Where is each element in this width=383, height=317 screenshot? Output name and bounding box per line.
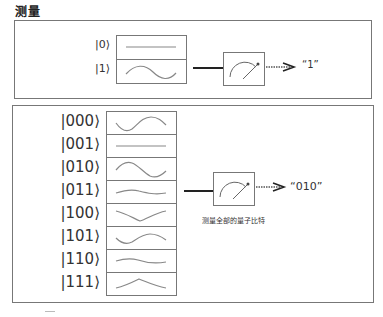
meter-box	[223, 52, 265, 86]
state-wave-box-010	[106, 157, 177, 181]
state-wave-box-0	[116, 35, 187, 60]
state-wave-box-001	[106, 134, 177, 158]
state-label-000: |000⟩	[44, 112, 100, 130]
peak-wave-icon	[107, 273, 176, 295]
state-label-110: |110⟩	[44, 250, 100, 268]
state-label-010: |010⟩	[44, 158, 100, 176]
measurement-output-3q: “010”	[290, 180, 322, 193]
sine-wave-icon	[117, 60, 186, 83]
flat-wave-icon	[107, 135, 176, 157]
dip-wave-icon	[107, 204, 176, 226]
state-label-100: |100⟩	[44, 204, 100, 222]
flat-wave-icon	[117, 36, 186, 59]
state-label-101: |101⟩	[44, 227, 100, 245]
dotted-arrow-icon	[255, 181, 287, 193]
measurement-meter-icon	[224, 53, 264, 85]
section-title: 测量	[15, 2, 41, 19]
state-label-001: |001⟩	[44, 135, 100, 153]
measurement-caption: 测量全部的量子比特	[202, 215, 265, 225]
sine-wave-icon	[107, 227, 176, 249]
state-wave-box-1	[116, 59, 187, 84]
state-wave-box-101	[106, 226, 177, 250]
wire-to-meter-3q	[184, 190, 213, 192]
state-wave-box-111	[106, 272, 177, 296]
state-wave-box-100	[106, 203, 177, 227]
gentle-wave-icon	[107, 181, 176, 203]
state-label-111: |111⟩	[44, 273, 100, 291]
dotted-arrow-icon	[265, 61, 297, 73]
state-label-0: |0⟩	[80, 38, 110, 51]
state-label-011: |011⟩	[44, 181, 100, 199]
measurement-meter-icon	[214, 173, 254, 205]
state-wave-box-000	[106, 111, 177, 135]
sine-wave-icon	[107, 112, 176, 134]
measurement-output: “1”	[302, 59, 319, 70]
wire-to-meter	[193, 67, 223, 69]
sine-wave-icon	[107, 158, 176, 180]
state-wave-box-110	[106, 249, 177, 273]
page-footer-mark	[45, 311, 55, 312]
state-wave-box-011	[106, 180, 177, 204]
meter-box-3q	[213, 172, 255, 206]
state-label-1: |1⟩	[80, 62, 110, 75]
gentle-wave-icon	[107, 250, 176, 272]
